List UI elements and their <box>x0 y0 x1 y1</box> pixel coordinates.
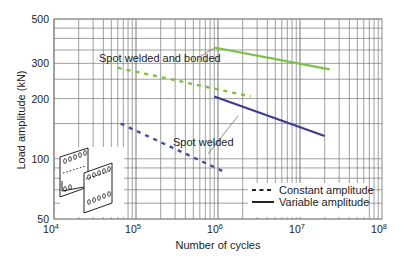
legend: Constant amplitude Variable amplitude <box>248 183 374 217</box>
series-line-2 <box>214 96 324 136</box>
legend-constant-amplitude: Constant amplitude <box>279 184 374 196</box>
x-tick-label: 108 <box>371 222 387 235</box>
legend-variable-amplitude: Variable amplitude <box>279 196 369 208</box>
x-tick-label: 107 <box>289 222 305 235</box>
x-axis-ticks: 104105106107108 <box>43 222 387 235</box>
series-line-1 <box>118 68 251 97</box>
annotation-spot-welded: Spot welded <box>173 136 234 148</box>
y-tick-label: 200 <box>31 93 49 105</box>
annotation-spot-welded-bonded: Spot welded and bonded <box>99 52 221 64</box>
y-tick-label: 300 <box>31 57 49 69</box>
y-tick-label: 100 <box>31 153 49 165</box>
x-axis-label: Number of cycles <box>176 239 261 251</box>
y-axis-ticks: 50100200300500 <box>31 13 49 225</box>
x-tick-label: 105 <box>125 222 141 235</box>
series-line-0 <box>214 48 329 70</box>
sn-chart: Spot welded and bonded Spot welded Const… <box>0 0 401 267</box>
specimen-sketch-icon <box>60 147 124 217</box>
x-tick-label: 106 <box>207 222 223 235</box>
x-tick-label: 104 <box>43 222 59 235</box>
y-axis-label: Load amplitude (kN) <box>15 70 27 169</box>
series-lines <box>118 48 330 172</box>
y-tick-label: 500 <box>31 13 49 25</box>
annotation-leader-spot-welded <box>208 116 238 154</box>
